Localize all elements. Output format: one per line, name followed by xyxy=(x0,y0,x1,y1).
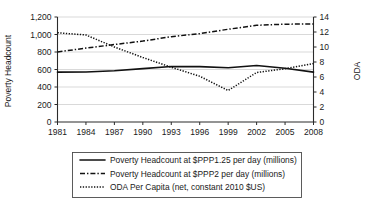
y2-tick-label: 4 xyxy=(320,87,325,97)
y2-axis-ticks: 02468101214 xyxy=(314,12,330,127)
y-tick-label: 1,200 xyxy=(30,12,52,22)
x-tick-label: 1987 xyxy=(105,127,124,137)
y2-tick-label: 12 xyxy=(320,27,330,37)
legend-label-2: ODA Per Capita (net, constant 2010 $US) xyxy=(110,182,265,192)
x-tick-label: 2005 xyxy=(276,127,295,137)
x-tick-label: 2002 xyxy=(247,127,266,137)
y-tick-label: 0 xyxy=(47,117,52,127)
x-tick-label: 1996 xyxy=(190,127,209,137)
y2-tick-label: 0 xyxy=(320,117,325,127)
x-tick-label: 1999 xyxy=(219,127,238,137)
y2-tick-label: 10 xyxy=(320,42,330,52)
y2-tick-label: 2 xyxy=(320,102,325,112)
x-tick-label: 2008 xyxy=(304,127,323,137)
legend-label-0: Poverty Headcount at $PPP1.25 per day (m… xyxy=(110,155,297,165)
series-lines xyxy=(58,24,314,91)
legend-items: Poverty Headcount at $PPP1.25 per day (m… xyxy=(80,155,297,192)
x-tick-label: 1984 xyxy=(76,127,95,137)
y-tick-label: 400 xyxy=(37,82,51,92)
y-axis-title: Poverty Headcount xyxy=(3,34,13,107)
gridlines xyxy=(58,17,314,105)
series-line-2 xyxy=(58,33,314,91)
x-tick-label: 1990 xyxy=(133,127,152,137)
y2-tick-label: 6 xyxy=(320,72,325,82)
y-tick-label: 800 xyxy=(37,47,51,57)
chart-svg: Poverty Headcount ODA 02004006008001,000… xyxy=(0,0,370,205)
y-tick-label: 200 xyxy=(37,100,51,110)
y-axis-ticks: 02004006008001,0001,200 xyxy=(30,12,57,127)
chart-figure: Poverty Headcount ODA 02004006008001,000… xyxy=(0,0,370,205)
y2-tick-label: 8 xyxy=(320,57,325,67)
y2-tick-label: 14 xyxy=(320,12,330,22)
y-tick-label: 1,000 xyxy=(30,30,52,40)
x-tick-label: 1993 xyxy=(162,127,181,137)
x-axis-ticks: 1981198419871990199319961999200220052008 xyxy=(48,122,323,137)
x-tick-label: 1981 xyxy=(48,127,67,137)
y-tick-label: 600 xyxy=(37,65,51,75)
y2-axis-title: ODA xyxy=(352,61,362,80)
legend-label-1: Poverty Headcount at $PPP2 per day (mill… xyxy=(110,169,285,179)
series-line-1 xyxy=(58,24,314,52)
